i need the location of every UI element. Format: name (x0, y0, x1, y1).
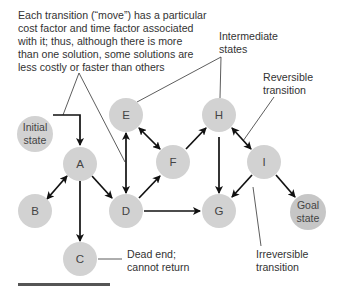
node-E: E (109, 98, 143, 132)
node-G-label: G (215, 205, 224, 217)
goal-state-label-1: Goal (297, 199, 319, 211)
reversible-callout (243, 97, 274, 141)
node-C: C (63, 242, 97, 276)
node-F: F (156, 145, 190, 179)
initial-state-label-1: Initial (23, 121, 48, 133)
node-goal-state: Goal state (290, 194, 326, 230)
node-H-label: H (215, 109, 223, 121)
irreversible-line-2: transition (256, 261, 299, 273)
reversible-line-1: Reversible (263, 71, 313, 83)
reversible-transition-annotation: Reversible transition (263, 71, 313, 96)
node-G: G (202, 194, 236, 228)
node-F-label: F (169, 156, 176, 168)
reversible-line-2: transition (263, 84, 306, 96)
node-initial-state: Initial state (17, 116, 53, 152)
irreversible-callout (253, 187, 261, 246)
dead-end-line-2: cannot return (127, 261, 190, 273)
edge-E-F (139, 128, 160, 149)
cost-note-line-1: Each transition (“move”) has a particula… (18, 9, 207, 21)
edge-F-to-H (186, 128, 206, 149)
edge-A-to-D (92, 176, 112, 198)
state-space-diagram: Each transition (“move”) has a particula… (0, 0, 340, 287)
node-A: A (63, 147, 97, 181)
node-D: D (109, 194, 143, 228)
node-I-label: I (262, 156, 265, 168)
cost-note-line-5: less costly or faster than others (18, 61, 165, 73)
cost-note-line-2: cost factor and time factor associated (18, 22, 194, 34)
node-B-label: B (31, 205, 39, 217)
node-H: H (202, 98, 236, 132)
cost-note-line-4: than one solution, some solutions are (18, 48, 194, 60)
node-C-label: C (76, 253, 84, 265)
edge-H-I (232, 128, 251, 149)
node-A-label: A (76, 158, 84, 170)
node-D-label: D (122, 205, 130, 217)
cost-note-annotation: Each transition (“move”) has a particula… (17, 9, 207, 73)
node-B: B (18, 194, 52, 228)
irreversible-transition-annotation: Irreversible transition (256, 248, 309, 273)
dead-end-line-1: Dead end; (127, 248, 176, 260)
cost-note-line-3: with it; thus, although there is more (17, 35, 182, 47)
edge-I-to-G (232, 175, 252, 197)
edge-D-to-F (139, 176, 160, 198)
edge-initial-to-A (53, 115, 80, 145)
node-E-label: E (122, 109, 130, 121)
edge-A-B (47, 176, 67, 199)
irreversible-line-1: Irreversible (256, 248, 309, 260)
initial-state-label-2: state (24, 134, 47, 146)
bottom-rule (18, 283, 110, 286)
intermediate-states-annotation: Intermediate states (219, 30, 278, 55)
goal-state-label-2: state (297, 212, 320, 224)
dead-end-annotation: Dead end; cannot return (127, 248, 190, 273)
edge-I-to-goal (276, 175, 295, 197)
intermediate-line-1: Intermediate (219, 30, 278, 42)
node-I: I (247, 145, 281, 179)
intermediate-line-2: states (219, 43, 247, 55)
